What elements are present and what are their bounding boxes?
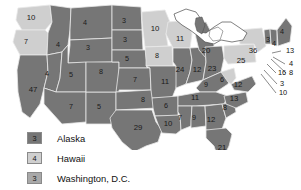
state-value-or: 7 xyxy=(24,37,28,46)
legend-label-washington-dc: Washington, D.C. xyxy=(57,172,130,186)
state-value-ca: 47 xyxy=(29,85,38,94)
state-sd xyxy=(112,30,143,50)
state-value-ga: 12 xyxy=(207,115,216,124)
state-value-ne: 5 xyxy=(125,54,129,63)
state-value-ar: 6 xyxy=(164,101,168,110)
state-wy xyxy=(68,38,112,63)
state-value-ky: 9 xyxy=(204,80,208,89)
state-mt xyxy=(70,5,112,40)
state-value-wv: 6 xyxy=(220,75,224,84)
state-value-nj: 16 xyxy=(278,68,286,77)
electoral-map-figure: 1074434745758335782910811610112412202391… xyxy=(0,0,301,190)
state-value-ct: 8 xyxy=(289,68,293,77)
legend-row-washington-dc: 3 Washington, D.C. xyxy=(0,169,301,188)
state-value-mi: 20 xyxy=(202,46,211,55)
legend-swatch-washington-dc: 3 xyxy=(27,172,42,184)
map-legend: 3 Alaska 4 Hawaii 3 Washington, D.C. xyxy=(0,131,301,190)
state-value-va: 12 xyxy=(234,80,243,89)
state-value-sc: 8 xyxy=(223,103,227,112)
state-value-nv: 4 xyxy=(45,69,49,78)
state-value-mt: 4 xyxy=(83,18,87,27)
state-value-mo: 11 xyxy=(161,77,169,86)
state-value-de: 3 xyxy=(280,79,284,88)
state-value-nh: 4 xyxy=(272,39,276,48)
state-value-wy: 3 xyxy=(86,43,90,52)
state-value-ri: 4 xyxy=(289,59,293,68)
state-value-ia: 8 xyxy=(155,51,159,60)
legend-row-alaska: 3 Alaska xyxy=(0,131,301,150)
legend-swatch-alaska: 3 xyxy=(27,132,42,144)
state-value-vt: 3 xyxy=(266,35,270,44)
state-az xyxy=(44,88,86,124)
state-value-tn: 11 xyxy=(191,93,199,102)
state-value-me: 4 xyxy=(280,27,284,36)
state-value-al: 9 xyxy=(192,113,196,122)
state-value-nm: 5 xyxy=(97,102,101,111)
state-nd xyxy=(112,5,142,30)
leader-line-nj xyxy=(267,64,276,73)
state-value-ny: 36 xyxy=(249,46,258,55)
state-value-co: 8 xyxy=(99,67,103,76)
state-value-il: 24 xyxy=(176,65,185,74)
legend-label-hawaii: Hawaii xyxy=(57,152,85,166)
state-value-id: 4 xyxy=(56,40,60,49)
state-ia xyxy=(145,46,173,66)
state-value-mn: 10 xyxy=(151,24,160,33)
state-value-wi: 11 xyxy=(176,34,184,43)
state-value-oh: 23 xyxy=(208,64,217,73)
state-value-az: 7 xyxy=(69,102,73,111)
state-value-ks: 7 xyxy=(133,75,137,84)
state-value-ms: 7 xyxy=(178,113,182,122)
legend-row-hawaii: 4 Hawaii xyxy=(0,150,301,169)
state-value-sd: 3 xyxy=(123,35,127,44)
state-value-nc: 13 xyxy=(230,94,239,103)
state-value-pa: 25 xyxy=(237,56,246,65)
state-value-md: 10 xyxy=(279,88,287,97)
state-value-ma: 13 xyxy=(286,46,294,55)
leader-line-ri xyxy=(273,57,285,64)
state-or xyxy=(13,30,48,55)
state-callout-labels: 134816310 xyxy=(261,46,294,97)
state-value-ut: 5 xyxy=(69,70,73,79)
state-value-nd: 3 xyxy=(122,16,126,25)
leader-line-ma xyxy=(272,51,281,53)
us-electoral-map: 1074434745758335782910811610112412202391… xyxy=(0,0,301,150)
leader-line-md xyxy=(261,74,276,93)
state-value-ok: 8 xyxy=(141,95,145,104)
state-value-la: 10 xyxy=(164,119,173,128)
legend-label-alaska: Alaska xyxy=(57,132,85,146)
state-value-wa: 10 xyxy=(27,13,36,22)
legend-swatch-hawaii: 4 xyxy=(27,152,42,164)
state-value-in: 12 xyxy=(193,65,202,74)
state-ok xyxy=(116,90,157,110)
